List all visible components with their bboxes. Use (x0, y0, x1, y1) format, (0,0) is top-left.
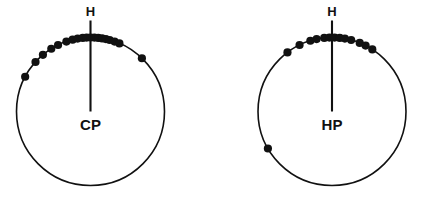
center-label-left: CP (80, 116, 101, 133)
data-point (115, 39, 123, 47)
data-point (368, 45, 376, 53)
data-dots-left (21, 33, 146, 80)
data-point (54, 41, 62, 49)
plot-right-hp: H HP (258, 4, 406, 186)
center-label-right: HP (322, 116, 343, 133)
data-point (283, 48, 291, 56)
data-point (264, 144, 272, 152)
north-label-right: H (327, 4, 336, 19)
plot-left-cp: H CP (17, 4, 165, 186)
data-point (39, 51, 47, 59)
figure-canvas: H CP H HP (0, 0, 430, 210)
circular-orientation-figure: H CP H HP (0, 0, 430, 210)
data-point (31, 58, 39, 66)
data-point (21, 73, 29, 81)
data-point (347, 36, 355, 44)
data-point (138, 54, 146, 62)
data-dots-right (264, 33, 377, 152)
data-point (295, 41, 303, 49)
data-point (313, 35, 321, 43)
north-label-left: H (86, 4, 95, 19)
